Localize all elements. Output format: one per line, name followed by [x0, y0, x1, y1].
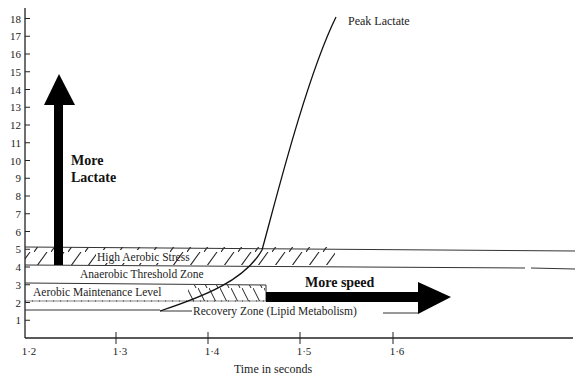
zone-aerobic-maintenance: Aerobic Maintenance Level [25, 283, 266, 301]
label-peak-lactate: Peak Lactate [348, 14, 410, 28]
y-tick-label: 1 [16, 314, 22, 326]
y-tick-label: 15 [10, 66, 22, 78]
label-more-lactate-line2: Lactate [71, 170, 116, 185]
y-tick-label: 6 [16, 226, 22, 238]
y-tick-label: 17 [10, 30, 22, 42]
x-tick-label: 1·6 [390, 345, 405, 357]
label-recovery-zone: Recovery Zone (Lipid Metabolism) [193, 305, 357, 318]
y-tick-label: 12 [10, 119, 21, 131]
y-tick-label: 18 [10, 13, 22, 25]
x-axis: 1·21·31·41·51·6 Time in seconds [22, 332, 573, 376]
label-anaerobic-threshold-zone: Anaerobic Threshold Zone [80, 268, 204, 280]
x-axis-title: Time in seconds [234, 362, 313, 376]
y-tick-label: 2 [16, 297, 22, 309]
y-tick-label: 14 [10, 84, 22, 96]
y-tick-label: 13 [10, 101, 22, 113]
zone-high-aerobic-stress: High Aerobic Stress [25, 247, 575, 269]
y-tick-label: 7 [16, 208, 22, 220]
lactate-speed-chart: 123456789101112131415161718 1·21·31·41·5… [0, 0, 584, 385]
x-tick-label: 1·3 [113, 345, 128, 357]
y-tick-label: 9 [16, 172, 22, 184]
y-tick-label: 3 [16, 279, 22, 291]
y-tick-label: 5 [16, 243, 22, 255]
y-tick-label: 8 [16, 190, 22, 202]
x-tick-label: 1·5 [297, 345, 312, 357]
zone-recovery: Recovery Zone (Lipid Metabolism) [25, 305, 418, 318]
y-tick-label: 10 [10, 155, 22, 167]
label-aerobic-maintenance-level: Aerobic Maintenance Level [33, 286, 161, 298]
x-tick-label: 1·4 [205, 345, 220, 357]
y-tick-label: 4 [16, 261, 22, 273]
label-high-aerobic-stress: High Aerobic Stress [97, 251, 190, 264]
x-tick-label: 1·2 [22, 345, 37, 357]
y-tick-label: 16 [10, 48, 22, 60]
label-more-speed: More speed [305, 275, 375, 290]
y-axis: 123456789101112131415161718 [10, 8, 30, 338]
y-tick-label: 11 [10, 137, 21, 149]
label-more-lactate-line1: More [71, 153, 103, 168]
